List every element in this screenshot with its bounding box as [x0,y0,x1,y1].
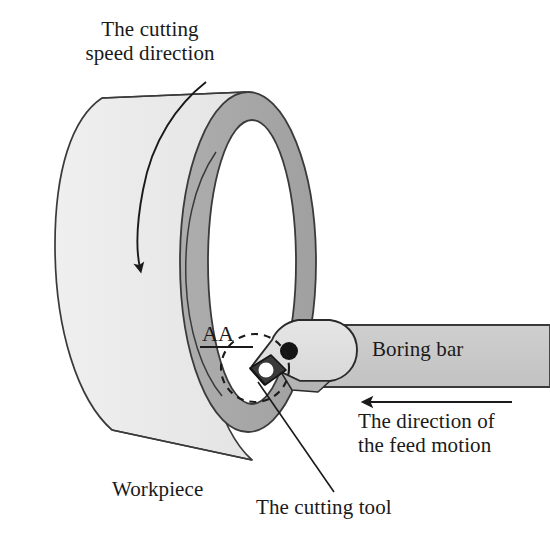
label-workpiece: Workpiece [112,478,203,502]
clamp-screw-icon [280,342,298,360]
diagram-canvas [0,0,550,541]
workpiece-group [55,92,316,460]
label-cutting-tool: The cutting tool [256,496,392,520]
label-feed-direction: The direction of the feed motion [358,410,495,457]
insert-hole [259,363,274,378]
label-boring-bar: Boring bar [372,338,463,362]
label-cutting-speed-direction: The cutting speed direction [0,18,300,65]
boring-operation-figure: The cutting speed direction AA Boring ba… [0,0,550,541]
label-section-aa: AA [202,322,234,347]
cutting-tool-leader-line [258,382,334,492]
